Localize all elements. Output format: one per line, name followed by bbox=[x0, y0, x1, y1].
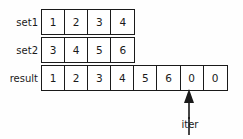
array-cell: 2 bbox=[65, 10, 88, 34]
array-cell: 6 bbox=[157, 66, 180, 90]
array-row-set1: set1 1 2 3 4 bbox=[0, 9, 135, 35]
array-cell: 3 bbox=[88, 66, 111, 90]
array-cell: 3 bbox=[42, 38, 65, 62]
pointer-label-iter: iter bbox=[170, 119, 210, 130]
row-label-set1: set1 bbox=[0, 17, 41, 28]
array-cell: 6 bbox=[111, 38, 134, 62]
array-row-result: result 1 2 3 4 5 6 0 0 bbox=[0, 65, 228, 91]
array-cell: 2 bbox=[65, 66, 88, 90]
array-cell: 4 bbox=[65, 38, 88, 62]
array-row-set2: set2 3 4 5 6 bbox=[0, 37, 135, 63]
array-cells-set2: 3 4 5 6 bbox=[41, 37, 135, 63]
array-cell: 0 bbox=[204, 66, 227, 90]
array-cell: 0 bbox=[181, 66, 204, 90]
array-cell: 1 bbox=[42, 10, 65, 34]
array-cell: 4 bbox=[111, 10, 134, 34]
array-cells-result: 1 2 3 4 5 6 0 0 bbox=[41, 65, 228, 91]
array-cell: 4 bbox=[111, 66, 134, 90]
array-cell: 5 bbox=[88, 38, 111, 62]
array-cell: 1 bbox=[42, 66, 65, 90]
array-cells-set1: 1 2 3 4 bbox=[41, 9, 135, 35]
array-union-diagram: set1 1 2 3 4 set2 3 4 5 6 result 1 2 3 4… bbox=[0, 0, 243, 139]
array-cell: 3 bbox=[88, 10, 111, 34]
row-label-result: result bbox=[0, 73, 41, 84]
array-cell: 5 bbox=[134, 66, 157, 90]
row-label-set2: set2 bbox=[0, 45, 41, 56]
